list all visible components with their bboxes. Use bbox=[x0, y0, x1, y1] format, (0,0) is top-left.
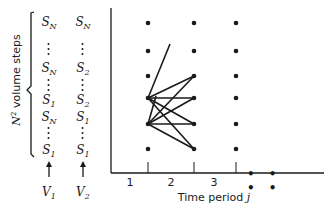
state-node bbox=[192, 122, 197, 127]
state-label: SN bbox=[41, 111, 56, 123]
state-node bbox=[192, 49, 197, 54]
state-node bbox=[234, 49, 239, 54]
x-axis-ticks bbox=[148, 162, 236, 173]
vertical-ellipsis bbox=[82, 43, 85, 58]
arrow-up-icon bbox=[45, 161, 53, 177]
arrow-up-icon bbox=[79, 161, 87, 177]
state-node bbox=[192, 74, 197, 79]
state-node bbox=[234, 96, 239, 101]
state-label: SN bbox=[41, 16, 56, 28]
state-node bbox=[146, 49, 151, 54]
vertical-ellipsis bbox=[48, 79, 51, 94]
state-label: SN bbox=[41, 62, 56, 74]
x-tick-label-3: 3 bbox=[211, 176, 218, 189]
state-node bbox=[234, 147, 239, 152]
volume-label: V2 bbox=[76, 186, 90, 198]
transition-edge bbox=[148, 124, 194, 149]
volume-label: V1 bbox=[42, 186, 56, 198]
state-node bbox=[234, 122, 239, 127]
state-node bbox=[146, 96, 151, 101]
vertical-ellipsis bbox=[48, 127, 51, 142]
state-node bbox=[234, 21, 239, 26]
state-label: S1 bbox=[76, 144, 89, 156]
vertical-ellipsis bbox=[82, 79, 85, 94]
x-axis-ellipsis: • • • • bbox=[247, 167, 303, 195]
state-node bbox=[146, 74, 151, 79]
state-node bbox=[192, 147, 197, 152]
state-nodes bbox=[146, 21, 239, 152]
state-label: S1 bbox=[76, 111, 89, 123]
state-label: S2 bbox=[76, 62, 89, 74]
state-node bbox=[192, 96, 197, 101]
x-tick-label-1: 1 bbox=[127, 176, 134, 189]
vertical-ellipsis bbox=[82, 127, 85, 142]
state-node bbox=[146, 122, 151, 127]
state-node bbox=[192, 21, 197, 26]
state-label: S1 bbox=[42, 94, 55, 106]
vertical-ellipsis bbox=[48, 43, 51, 58]
state-node bbox=[146, 21, 151, 26]
state-node bbox=[146, 147, 151, 152]
x-axis-title: Time period j bbox=[178, 191, 250, 204]
state-node bbox=[234, 74, 239, 79]
x-tick-label-2: 2 bbox=[168, 176, 175, 189]
state-label: SN bbox=[75, 16, 90, 28]
brace bbox=[27, 12, 34, 157]
y-axis-label: N2 volume steps bbox=[10, 34, 23, 125]
state-label: S2 bbox=[76, 94, 89, 106]
state-label: S1 bbox=[42, 144, 55, 156]
transition-edges bbox=[148, 44, 194, 149]
